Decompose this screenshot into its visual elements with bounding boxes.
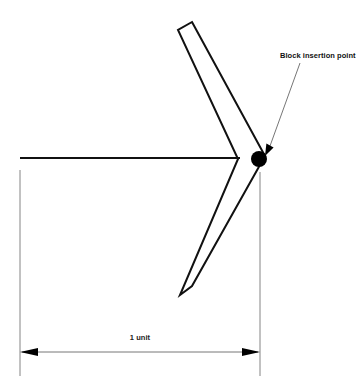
insertion-point-label: Block insertion point (280, 51, 356, 60)
block-insertion-point-diagram: Block insertion point 1 unit (0, 0, 358, 390)
block-insertion-point-marker[interactable] (251, 151, 267, 167)
dimension-label: 1 unit (130, 333, 151, 342)
diagram-canvas: Block insertion point 1 unit (0, 0, 358, 390)
